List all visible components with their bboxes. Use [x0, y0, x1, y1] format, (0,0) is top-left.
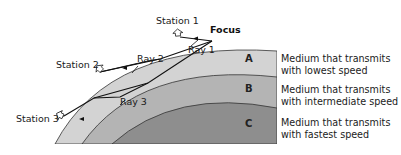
- ray-3-label: Ray 3: [120, 96, 147, 107]
- legend-b-line2: with intermediate speed: [281, 96, 398, 108]
- station-1-label: Station 1: [156, 15, 199, 26]
- station-2-label: Station 2: [56, 59, 99, 70]
- legend-c-line1: Medium that transmits: [281, 117, 390, 129]
- legend-layer-b: Medium that transmits with intermediate …: [281, 84, 398, 107]
- ray-1-label: Ray 1: [188, 44, 215, 55]
- layer-c-letter: C: [245, 118, 252, 129]
- legend-layer-c: Medium that transmits with fastest speed: [281, 117, 390, 140]
- legend-a-line1: Medium that transmits: [281, 53, 390, 65]
- legend-layer-a: Medium that transmits with lowest speed: [281, 53, 390, 76]
- layer-a-letter: A: [245, 53, 253, 64]
- station-3-label: Station 3: [16, 113, 59, 124]
- legend-c-line2: with fastest speed: [281, 129, 390, 141]
- legend-b-line1: Medium that transmits: [281, 84, 398, 96]
- focus-label: Focus: [210, 24, 241, 35]
- layer-b-letter: B: [245, 83, 253, 94]
- ray-2-label: Ray 2: [137, 53, 164, 64]
- station-1-icon: [172, 29, 183, 37]
- legend-a-line2: with lowest speed: [281, 65, 390, 77]
